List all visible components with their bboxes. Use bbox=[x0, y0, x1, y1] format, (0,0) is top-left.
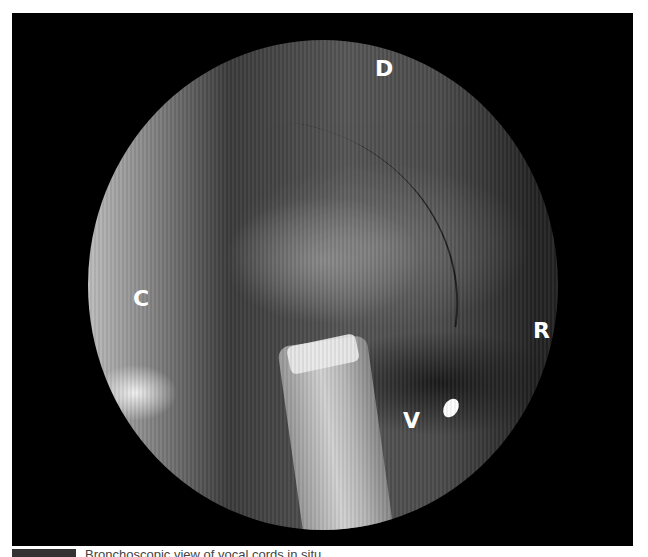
light-reflex bbox=[440, 396, 462, 420]
endoscopic-field bbox=[88, 40, 558, 530]
membrane-edge bbox=[266, 123, 481, 328]
label-d: D bbox=[375, 58, 393, 80]
instrument-shaft bbox=[277, 335, 397, 530]
figure-frame bbox=[12, 13, 633, 546]
label-v: V bbox=[403, 410, 420, 432]
instrument-tip bbox=[286, 333, 360, 375]
label-c: C bbox=[133, 288, 149, 310]
caption-marker bbox=[12, 549, 76, 557]
figure-caption: Bronchoscopic view of vocal cords in sit… bbox=[85, 545, 321, 557]
label-r: R bbox=[533, 320, 550, 342]
